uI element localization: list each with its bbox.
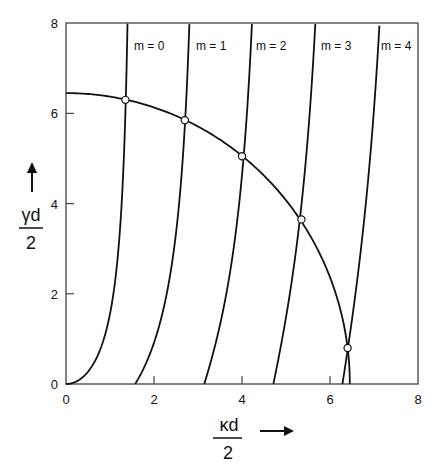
- label-m1: m = 1: [196, 39, 227, 53]
- label-m0: m = 0: [134, 39, 165, 53]
- mode-curve-m0: [66, 24, 127, 384]
- intersection-point-m1: [181, 117, 188, 124]
- up-arrow-icon: [27, 162, 37, 192]
- x-tick-6: 6: [326, 392, 333, 407]
- mode-curves: [66, 24, 379, 384]
- mode-curve-m1: [135, 24, 189, 384]
- intersection-point-m4: [344, 344, 351, 351]
- chart: 0 2 4 6 8 0 2 4 6 8 m = 0 m = 1 m = 2 m …: [0, 0, 438, 474]
- x-tick-4: 4: [238, 392, 245, 407]
- x-tick-2: 2: [150, 392, 157, 407]
- intersection-point-m3: [298, 216, 305, 223]
- mode-curve-m2: [204, 24, 252, 384]
- y-tick-0: 0: [51, 377, 58, 392]
- label-m2: m = 2: [256, 39, 287, 53]
- y-tick-6: 6: [51, 106, 58, 121]
- y-tick-8: 8: [51, 16, 58, 31]
- x-axis-label-denominator: 2: [223, 443, 233, 463]
- x-tick-8: 8: [414, 392, 421, 407]
- intersection-point-m2: [238, 153, 245, 160]
- right-arrow-icon: [260, 426, 294, 436]
- y-axis-label-numerator: γd: [21, 205, 40, 225]
- mode-curve-m3: [273, 24, 315, 384]
- mode-curve-m4: [342, 26, 379, 384]
- y-tick-2: 2: [51, 287, 58, 302]
- x-tick-0: 0: [62, 392, 69, 407]
- intersection-point-m0: [122, 96, 129, 103]
- axis-ticks: [66, 113, 330, 384]
- y-axis-label-denominator: 2: [26, 233, 36, 253]
- label-m4: m = 4: [381, 39, 412, 53]
- y-tick-4: 4: [51, 197, 58, 212]
- x-axis-label-numerator: κd: [219, 415, 238, 435]
- label-m3: m = 3: [321, 39, 352, 53]
